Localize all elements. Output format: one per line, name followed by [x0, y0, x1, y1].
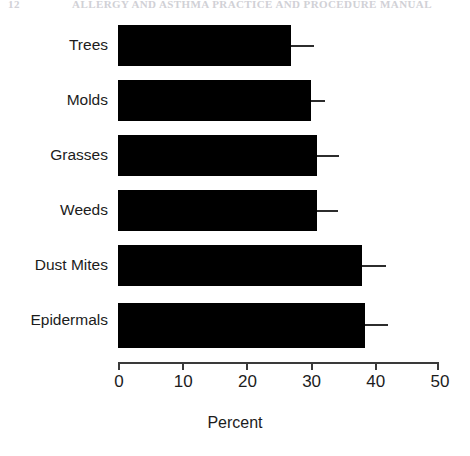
- category-label-weeds: Weeds: [0, 202, 108, 218]
- x-axis-tick-label-10: 10: [161, 372, 205, 392]
- bar-epidermals: [118, 303, 365, 348]
- bar-dust-mites: [118, 245, 362, 286]
- x-axis-tick-label-30: 30: [290, 372, 334, 392]
- category-label-dust-mites: Dust Mites: [0, 257, 108, 273]
- x-axis-tick-label-50: 50: [418, 372, 462, 392]
- x-axis-tick-50: [437, 362, 439, 370]
- x-axis-line: [118, 362, 439, 364]
- x-axis-tick-label-40: 40: [354, 372, 398, 392]
- category-label-grasses: Grasses: [0, 147, 108, 163]
- error-bar-grasses: [317, 155, 339, 157]
- error-bar-weeds: [317, 210, 338, 212]
- x-axis-tick-20: [246, 362, 248, 370]
- category-label-molds: Molds: [0, 92, 108, 108]
- category-label-epidermals: Epidermals: [0, 312, 108, 328]
- error-bar-molds: [311, 100, 326, 102]
- horizontal-bar-chart: Trees Molds Grasses Weeds Dust Mites Epi…: [0, 0, 470, 456]
- x-axis-tick-30: [311, 362, 313, 370]
- error-bar-dust-mites: [362, 265, 386, 267]
- x-axis-tick-40: [375, 362, 377, 370]
- bar-grasses: [118, 135, 317, 176]
- x-axis-title: Percent: [0, 414, 470, 432]
- bar-trees: [118, 25, 291, 66]
- x-axis-tick-0: [118, 362, 120, 370]
- x-axis-tick-10: [182, 362, 184, 370]
- error-bar-epidermals: [365, 324, 387, 326]
- x-axis-tick-label-0: 0: [97, 372, 141, 392]
- error-bar-trees: [291, 45, 313, 47]
- bar-molds: [118, 80, 311, 121]
- x-axis-tick-label-20: 20: [225, 372, 269, 392]
- bar-weeds: [118, 190, 317, 231]
- category-label-trees: Trees: [0, 37, 108, 53]
